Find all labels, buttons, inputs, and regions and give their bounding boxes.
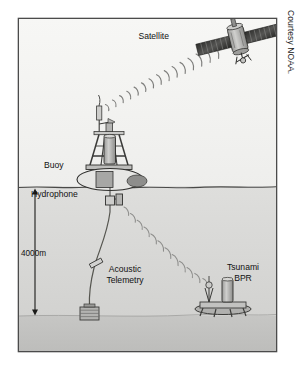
label-tsunami-line1: Tsunami [227, 262, 259, 272]
label-satellite: Satellite [138, 31, 169, 41]
diagram-canvas: Satellite Buoy Hydrophone 4000m Acoustic… [0, 0, 302, 370]
label-tsunami-line2: BPR [234, 273, 252, 283]
credit-line: Courtesy NOAA. [280, 8, 302, 128]
label-hydrophone: Hydrophone [31, 189, 78, 199]
ocean-region [19, 186, 276, 318]
label-acoustic-line1: Acoustic [109, 264, 142, 274]
label-buoy: Buoy [44, 160, 64, 170]
label-depth: 4000m [21, 249, 46, 258]
label-acoustic-line2: Telemetry [106, 275, 144, 285]
credit-text: Courtesy NOAA. [286, 10, 296, 74]
figure-root: Satellite Buoy Hydrophone 4000m Acoustic… [0, 0, 302, 370]
seafloor-region [19, 316, 276, 351]
scene: Satellite Buoy Hydrophone 4000m Acoustic… [19, 17, 282, 351]
